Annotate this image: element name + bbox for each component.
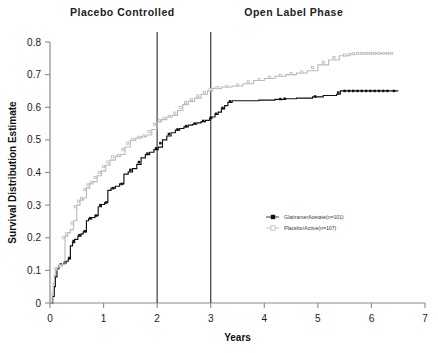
censor-mark-1-50 <box>361 52 363 54</box>
censor-mark-0-22 <box>202 120 205 123</box>
censor-mark-0-6 <box>84 230 87 233</box>
censor-mark-0-10 <box>105 201 108 204</box>
censor-mark-0-17 <box>159 142 162 145</box>
censor-mark-1-22 <box>148 131 150 133</box>
censor-mark-1-30 <box>190 98 192 100</box>
censor-mark-0-3 <box>68 257 71 260</box>
censor-mark-1-1 <box>59 265 61 267</box>
censor-mark-1-41 <box>290 73 292 75</box>
x-tick-label-1: 1 <box>101 313 107 324</box>
censor-mark-1-19 <box>132 138 134 140</box>
y-tick-label-4: 0.4 <box>27 167 41 178</box>
censor-mark-1-5 <box>74 206 76 208</box>
censor-mark-1-57 <box>391 52 393 54</box>
censor-mark-0-15 <box>146 152 149 155</box>
censor-mark-1-32 <box>203 91 205 93</box>
censor-mark-0-36 <box>365 90 368 93</box>
censor-mark-1-31 <box>197 95 199 97</box>
censor-mark-0-8 <box>95 214 98 217</box>
censor-mark-1-43 <box>311 66 313 68</box>
censor-mark-1-23 <box>153 123 155 125</box>
censor-mark-1-51 <box>365 52 367 54</box>
y-tick-label-3: 0.3 <box>27 200 41 211</box>
censor-mark-1-17 <box>122 149 124 151</box>
legend-marker-1 <box>271 226 275 230</box>
censor-mark-1-6 <box>77 200 79 202</box>
censor-mark-1-47 <box>348 53 350 55</box>
censor-mark-1-37 <box>247 81 249 83</box>
censor-mark-1-29 <box>184 102 186 104</box>
censor-mark-1-10 <box>90 181 92 183</box>
censor-mark-0-24 <box>215 113 218 116</box>
censor-mark-0-16 <box>155 147 158 150</box>
censor-mark-0-28 <box>283 98 286 101</box>
censor-mark-1-26 <box>168 115 170 117</box>
censor-mark-0-33 <box>352 90 355 93</box>
censor-mark-0-13 <box>129 169 132 172</box>
censor-mark-0-35 <box>361 90 364 93</box>
censor-mark-1-21 <box>143 135 145 137</box>
censor-mark-1-9 <box>87 184 89 186</box>
y-tick-label-8: 0.8 <box>27 37 41 48</box>
censor-mark-1-12 <box>98 171 100 173</box>
censor-mark-1-55 <box>382 52 384 54</box>
censor-mark-0-5 <box>78 234 81 237</box>
censor-mark-0-37 <box>369 90 372 93</box>
x-tick-label-0: 0 <box>47 313 53 324</box>
censor-mark-0-20 <box>185 125 188 128</box>
kaplan-meier-survival-plot: Placebo ControlledOpen Label Phase 00.10… <box>0 0 438 353</box>
censor-mark-1-54 <box>378 52 380 54</box>
censor-mark-1-15 <box>112 156 114 158</box>
censor-mark-1-20 <box>137 136 139 138</box>
x-tick-label-2: 2 <box>154 313 160 324</box>
x-tick-label-3: 3 <box>208 313 214 324</box>
censor-mark-1-33 <box>209 88 211 90</box>
censor-mark-1-45 <box>333 57 335 59</box>
censor-mark-1-13 <box>102 166 104 168</box>
censor-mark-1-36 <box>236 84 238 86</box>
censor-mark-1-49 <box>356 52 358 54</box>
censor-mark-1-53 <box>374 52 376 54</box>
censor-mark-0-23 <box>209 116 212 119</box>
censor-mark-1-39 <box>269 76 271 78</box>
censor-mark-1-40 <box>279 74 281 76</box>
y-tick-label-7: 0.7 <box>27 69 41 80</box>
survival-chart-container: Placebo ControlledOpen Label Phase 00.10… <box>0 0 438 353</box>
censor-mark-0-38 <box>373 90 376 93</box>
censor-mark-0-25 <box>221 107 224 110</box>
x-tick-label-5: 5 <box>315 313 321 324</box>
censor-mark-1-52 <box>369 52 371 54</box>
y-tick-label-6: 0.6 <box>27 102 41 113</box>
censor-mark-0-14 <box>138 161 141 164</box>
censor-mark-1-35 <box>226 85 228 87</box>
y-tick-label-0: 0 <box>35 298 41 309</box>
censor-mark-0-18 <box>168 133 171 136</box>
censor-mark-0-9 <box>99 204 102 207</box>
y-axis-title: Survival Distribution Estimate <box>7 101 18 244</box>
censor-mark-1-3 <box>66 233 68 235</box>
censor-mark-0-27 <box>279 98 282 101</box>
x-tick-label-7: 7 <box>422 313 428 324</box>
x-tick-label-4: 4 <box>262 313 268 324</box>
censor-mark-0-7 <box>89 217 92 220</box>
censor-mark-0-42 <box>393 90 396 93</box>
censor-mark-0-26 <box>229 100 232 103</box>
censor-mark-1-11 <box>94 176 96 178</box>
censor-mark-0-11 <box>112 187 115 190</box>
censor-mark-0-12 <box>121 183 124 186</box>
censor-mark-0-40 <box>382 90 385 93</box>
censor-mark-0-39 <box>378 90 381 93</box>
panel-title-1: Open Label Phase <box>244 6 343 18</box>
censor-mark-1-14 <box>107 161 109 163</box>
censor-mark-0-21 <box>193 122 196 125</box>
censor-mark-1-34 <box>216 87 218 89</box>
censor-mark-1-18 <box>127 142 129 144</box>
censor-mark-1-44 <box>322 61 324 63</box>
legend-label-0: GlatiramerAcetate(n=101) <box>284 214 344 220</box>
censor-mark-1-46 <box>344 54 346 56</box>
censor-mark-1-16 <box>117 154 119 156</box>
x-tick-label-6: 6 <box>369 313 375 324</box>
censor-mark-0-31 <box>343 90 346 93</box>
censor-mark-1-48 <box>352 53 354 55</box>
censor-mark-1-38 <box>258 78 260 80</box>
